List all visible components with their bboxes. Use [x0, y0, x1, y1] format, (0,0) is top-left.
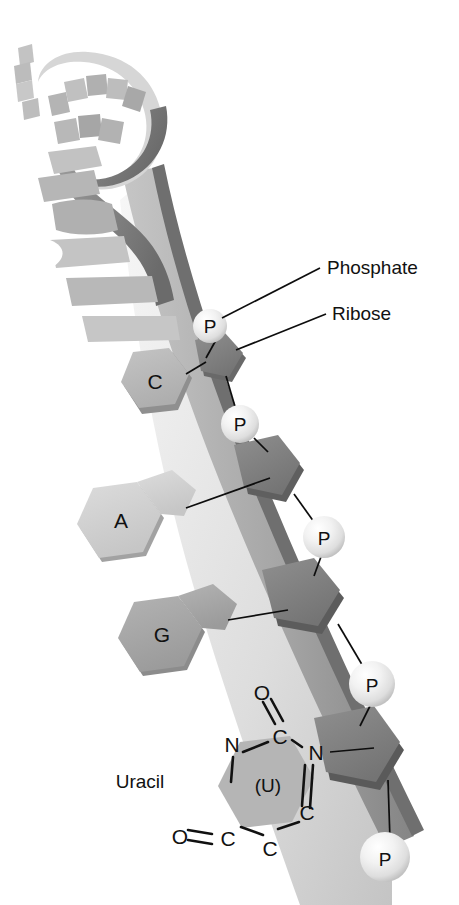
phosphate-circle: P	[193, 309, 227, 343]
adenine-letter: A	[114, 509, 128, 532]
uracil-atom-c4: C	[220, 827, 235, 850]
uracil-atom-n3: N	[308, 741, 323, 764]
phosphate-label: P	[379, 849, 392, 870]
cytosine-letter: C	[147, 370, 162, 393]
helix-base-paddles-top	[14, 44, 40, 120]
uracil-atom-n1: N	[224, 733, 239, 756]
phosphate-circle: P	[349, 661, 395, 707]
base-paddle	[82, 316, 180, 342]
uracil-name-label: Uracil	[116, 771, 165, 792]
phosphate-leader-line	[222, 268, 320, 318]
guanine-letter: G	[154, 623, 170, 646]
phosphate-circle: P	[360, 832, 410, 882]
uracil-oxygen-top: O	[254, 681, 270, 704]
phosphate-circle: P	[221, 405, 259, 443]
base-paddle	[52, 200, 118, 235]
phosphate-circle: P	[303, 516, 345, 558]
phosphate-label: P	[318, 528, 331, 549]
uracil-carbonyl-left	[188, 830, 212, 844]
ribose-callout-label: Ribose	[332, 303, 391, 324]
callout-leaders	[222, 268, 326, 350]
phosphate-label: P	[366, 675, 379, 696]
uracil-atom-c2: C	[272, 725, 287, 748]
ribose-leader-line	[236, 314, 326, 350]
rna-diagram-canvas: P P P P P Phosphate	[0, 0, 459, 905]
uracil-center-letter: (U)	[255, 775, 281, 796]
phosphate-label: P	[234, 414, 247, 435]
uracil-atom-c5: C	[262, 837, 277, 860]
rna-structure-figure: P P P P P Phosphate	[0, 0, 459, 905]
uracil-atom-c6: C	[299, 801, 314, 824]
base-paddle	[48, 146, 102, 174]
uracil-oxygen-left: O	[172, 825, 188, 848]
phosphate-callout-label: Phosphate	[327, 257, 418, 278]
base-paddle	[66, 276, 158, 306]
phosphate-label: P	[204, 316, 217, 337]
